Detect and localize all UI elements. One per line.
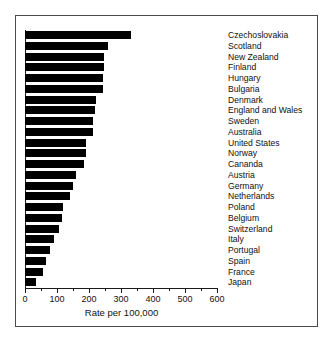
x-tick-label: 200 bbox=[81, 294, 96, 305]
category-label: Switzerland bbox=[228, 224, 328, 235]
category-label: Poland bbox=[228, 202, 328, 213]
figure-bar-chart: 0100200300400500600 Rate per 100,000 Cze… bbox=[0, 0, 334, 343]
x-tick-minor bbox=[73, 289, 74, 291]
x-tick-major bbox=[57, 289, 58, 293]
x-tick-label: 400 bbox=[145, 294, 160, 305]
x-tick-minor bbox=[105, 289, 106, 291]
x-tick-major bbox=[25, 289, 26, 293]
category-label: Netherlands bbox=[228, 191, 328, 202]
x-tick-label: 100 bbox=[49, 294, 64, 305]
x-tick-major bbox=[121, 289, 122, 293]
category-label-list: CzechoslovakiaScotlandNew ZealandFinland… bbox=[228, 30, 328, 288]
x-tick-minor bbox=[137, 289, 138, 291]
category-label: Scotland bbox=[228, 41, 328, 52]
x-tick-minor bbox=[169, 289, 170, 291]
x-tick-major bbox=[185, 289, 186, 293]
category-label: Sweden bbox=[228, 116, 328, 127]
category-label: Cananda bbox=[228, 159, 328, 170]
x-tick-label: 0 bbox=[22, 294, 27, 305]
x-tick-major bbox=[89, 289, 90, 293]
category-label: United States bbox=[228, 138, 328, 149]
category-label: Portugal bbox=[228, 245, 328, 256]
x-tick-major bbox=[217, 289, 218, 293]
category-label: Japan bbox=[228, 277, 328, 288]
category-label: Hungary bbox=[228, 73, 328, 84]
x-tick-major bbox=[153, 289, 154, 293]
x-tick-label: 600 bbox=[209, 294, 224, 305]
category-label: New Zealand bbox=[228, 52, 328, 63]
category-label: England and Wales bbox=[228, 105, 328, 116]
category-label: Belgium bbox=[228, 213, 328, 224]
plot-area: 0100200300400500600 Rate per 100,000 Cze… bbox=[0, 0, 334, 343]
x-tick-minor bbox=[201, 289, 202, 291]
x-tick-label: 500 bbox=[177, 294, 192, 305]
category-label: Czechoslovakia bbox=[228, 30, 328, 41]
x-tick-label: 300 bbox=[113, 294, 128, 305]
category-label: France bbox=[228, 267, 328, 278]
category-label: Italy bbox=[228, 234, 328, 245]
category-label: Norway bbox=[228, 148, 328, 159]
category-label: Denmark bbox=[228, 95, 328, 106]
x-tick-minor bbox=[41, 289, 42, 291]
category-label: Australia bbox=[228, 127, 328, 138]
category-label: Austria bbox=[228, 170, 328, 181]
category-label: Finland bbox=[228, 62, 328, 73]
category-label: Spain bbox=[228, 256, 328, 267]
category-label: Germany bbox=[228, 181, 328, 192]
category-label: Bulgaria bbox=[228, 84, 328, 95]
x-axis-title: Rate per 100,000 bbox=[25, 307, 218, 318]
